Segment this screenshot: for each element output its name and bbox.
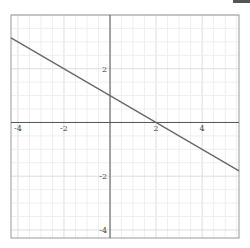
y-tick-label: -4 (99, 226, 107, 235)
x-tick-label: 2 (154, 124, 159, 133)
y-tick-label: -2 (99, 172, 107, 181)
x-tick-label: -2 (60, 124, 68, 133)
grid-lines (11, 15, 239, 238)
plot-frame (11, 15, 239, 238)
axes (11, 15, 239, 238)
function-plot: -4-2242-2-4 (0, 0, 250, 248)
data-series (11, 38, 239, 171)
x-tick-label: -4 (14, 124, 22, 133)
x-tick-label: 4 (200, 124, 205, 133)
y-tick-label: 2 (102, 65, 107, 74)
function-line (11, 38, 239, 171)
